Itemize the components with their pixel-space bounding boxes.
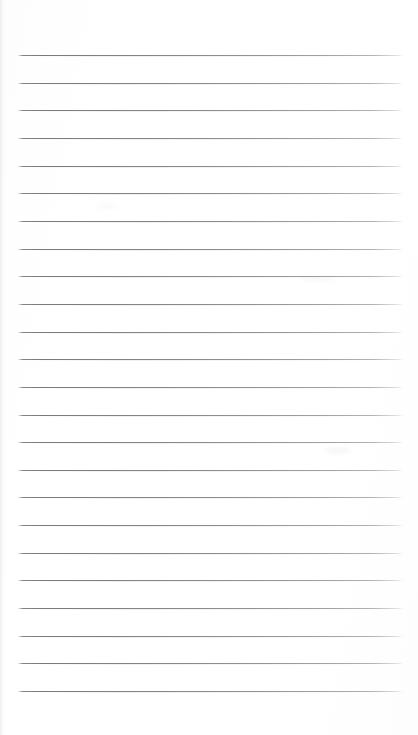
scanned-page: [0, 0, 418, 735]
rule-line: [18, 470, 403, 471]
rule-line: [18, 663, 403, 664]
rule-line: [18, 193, 403, 194]
ruled-lines-layer: [0, 0, 418, 735]
rule-line: [18, 221, 403, 222]
rule-line: [18, 387, 403, 388]
rule-line: [18, 525, 403, 526]
rule-line: [18, 332, 403, 333]
rule-line: [18, 304, 403, 305]
rule-line: [18, 553, 403, 554]
rule-line: [18, 442, 403, 443]
rule-line: [18, 276, 403, 277]
rule-line: [18, 636, 403, 637]
rule-line: [18, 83, 403, 84]
rule-line: [18, 138, 403, 139]
rule-line: [18, 580, 403, 581]
rule-line: [18, 608, 403, 609]
rule-line: [18, 55, 403, 56]
rule-line: [18, 110, 403, 111]
rule-line: [18, 166, 403, 167]
rule-line: [18, 249, 403, 250]
rule-line: [18, 497, 403, 498]
rule-line: [18, 359, 403, 360]
rule-line: [18, 415, 403, 416]
rule-line: [18, 691, 403, 692]
